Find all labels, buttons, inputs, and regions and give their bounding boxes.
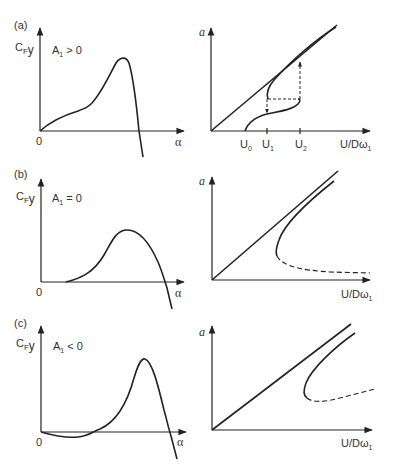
panel-a-right-xlabel: U/Dω1 [340, 139, 371, 152]
panel-a-tick-u2: U2 [295, 139, 307, 152]
panel-a-tick-u1: U1 [262, 139, 274, 152]
panel-c-label: (c) [14, 318, 27, 329]
panel-a-xlabel: α [175, 136, 181, 148]
panel-c-right-stable-branch [304, 333, 355, 398]
panel-a-left-axes [40, 28, 184, 131]
panel-b-xlabel: α [175, 287, 181, 299]
panel-b-right-ylabel: a [199, 175, 205, 187]
panel-a-condition: A1 > 0 [52, 45, 82, 58]
panel-a-right-upper-branch [267, 27, 336, 99]
panel-b-right-xlabel: U/Dω1 [341, 289, 372, 302]
panel-a-tick-u0: U0 [240, 139, 252, 152]
panel-c-right-reference-line [212, 324, 351, 430]
panel-a-right-axes [211, 28, 370, 134]
panel-a-right-ylabel: a [199, 26, 205, 38]
panel-c-condition: A1 < 0 [53, 341, 83, 354]
panel-b-left-curve [66, 230, 172, 309]
figure-canvas [0, 0, 393, 471]
panel-c-right-ylabel: a [199, 326, 205, 338]
panel-b-right-stable-branch [276, 181, 334, 256]
panel-a-label: (a) [14, 20, 27, 31]
panel-b-condition: A1 = 0 [52, 193, 82, 206]
panel-a-right-reference-line [211, 25, 337, 131]
panel-c-right-axes [212, 326, 372, 430]
panel-c-origin: 0 [36, 437, 42, 448]
panel-b-ylabel: CFy [16, 190, 35, 205]
panel-a-left-curve [40, 58, 143, 157]
panel-b-right-axes [212, 177, 370, 280]
panel-a-right-lower-branch [245, 99, 300, 131]
panel-b-right-unstable-branch [277, 256, 370, 273]
panel-b-origin: 0 [36, 287, 42, 298]
panel-a-ylabel: CFy [15, 41, 34, 56]
panel-c-xlabel: α [177, 436, 183, 448]
panel-b-label: (b) [14, 169, 27, 180]
panel-a-origin: 0 [36, 136, 42, 147]
panel-c-right-unstable-branch [307, 389, 375, 401]
panel-c-right-xlabel: U/Dω1 [341, 438, 372, 451]
panel-b-right-reference-line [212, 171, 338, 280]
panel-c-ylabel: CFy [16, 337, 35, 352]
panel-c-left-curve [41, 359, 177, 459]
